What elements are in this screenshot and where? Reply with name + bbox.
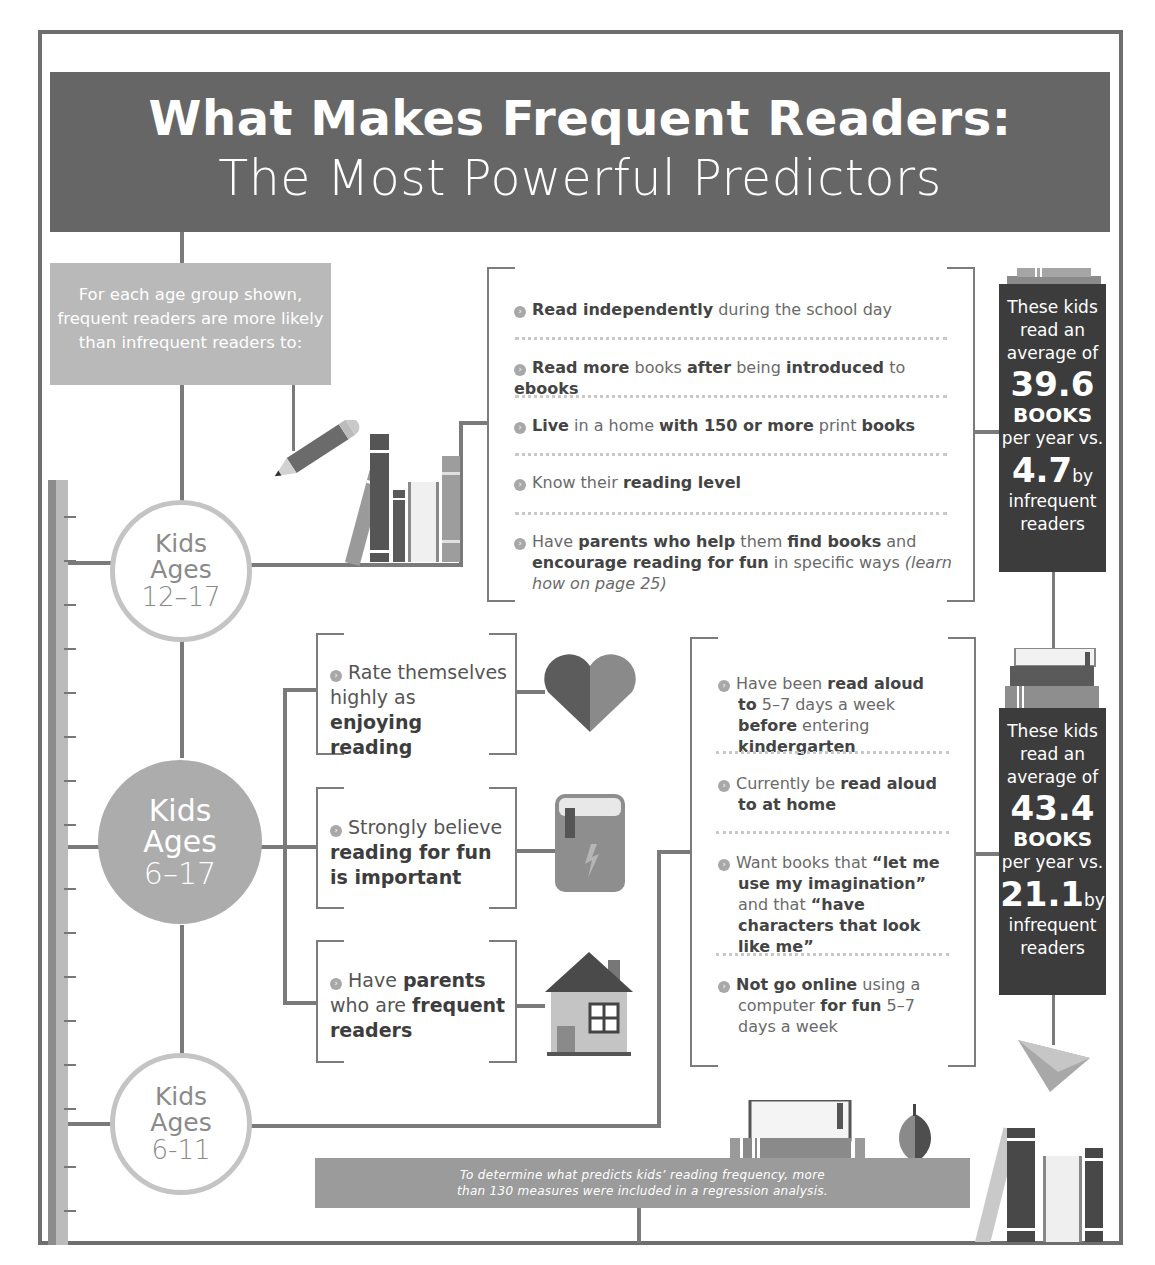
ruler-tick: [64, 932, 76, 934]
ruler-tick: [64, 648, 76, 650]
predictor-text: Read independently during the school day: [532, 300, 892, 319]
circle-label: Ages: [150, 1110, 211, 1136]
predictor-item: ›Live in a home with 150 or more print b…: [514, 415, 954, 436]
predictor-item: ›Currently be read aloud to at home: [718, 773, 943, 815]
ruler-tick: [64, 692, 76, 694]
chevron-right-icon: ›: [514, 479, 526, 491]
predictor-text: Have parents who help them find books an…: [532, 532, 952, 593]
ruler-tick: [64, 824, 76, 826]
ruler-tick: [64, 1064, 76, 1066]
circle-label: Kids: [155, 531, 207, 557]
connector-line: [180, 925, 184, 1053]
predictor-item: ›Have parents who are frequent readers: [330, 968, 510, 1043]
connector-line: [283, 1001, 318, 1005]
ruler-tick: [64, 888, 76, 890]
connector-line: [248, 1124, 660, 1128]
bracket-left: [690, 637, 718, 1067]
connector-line: [657, 850, 661, 1128]
book-icon: [555, 794, 627, 894]
ruler-tick: [64, 1210, 76, 1212]
book-stack-icon: [1007, 268, 1101, 284]
dotted-divider: [515, 453, 947, 456]
chevron-right-icon: ›: [718, 859, 730, 871]
connector-line: [180, 640, 184, 758]
connector-line: [180, 385, 184, 503]
predictor-item: ›Have been read aloud to 5–7 days a week…: [718, 673, 943, 757]
chevron-right-icon: ›: [514, 364, 526, 376]
predictor-item: ›Read independently during the school da…: [514, 299, 954, 320]
predictor-text: Not go online using a computer for fun 5…: [736, 975, 920, 1036]
stat-text: read an: [999, 743, 1106, 766]
chevron-right-icon: ›: [514, 306, 526, 318]
connector-line: [515, 849, 555, 853]
predictor-text: Strongly believe reading for fun is impo…: [330, 816, 502, 888]
predictor-text: Know their reading level: [532, 473, 741, 492]
stat-text: per year vs.: [999, 851, 1106, 874]
predictor-item: ›Have parents who help them find books a…: [514, 531, 954, 594]
stat-text: average of: [999, 342, 1106, 365]
connector-line: [657, 850, 690, 854]
ruler-tick: [64, 976, 76, 978]
dotted-divider: [515, 337, 947, 340]
connector-line: [1052, 572, 1055, 652]
chevron-right-icon: ›: [514, 538, 526, 550]
circle-label: Ages: [143, 826, 217, 858]
chevron-right-icon: ›: [330, 978, 342, 990]
ruler-tick: [64, 736, 76, 738]
connector-line: [68, 845, 100, 849]
chevron-right-icon: ›: [718, 780, 730, 792]
connector-line: [637, 1208, 641, 1243]
circle-range: 12–17: [141, 584, 220, 611]
chevron-right-icon: ›: [330, 670, 342, 682]
connector-line: [515, 1004, 545, 1008]
circle-label: Kids: [149, 795, 212, 827]
stat-box-12-17: These kids read an average of 39.6 BOOKS…: [999, 284, 1106, 572]
connector-line: [974, 852, 1002, 856]
chevron-right-icon: ›: [718, 981, 730, 993]
stat-text: readers: [999, 513, 1106, 536]
circle-label: Kids: [155, 1084, 207, 1110]
frequent-books-value: 43.4: [999, 789, 1106, 827]
heart-icon: [540, 652, 640, 734]
stat-box-6-11: These kids read an average of 43.4 BOOKS…: [999, 708, 1106, 995]
footer-note: To determine what predicts kids’ reading…: [315, 1158, 970, 1208]
ruler-tick: [64, 1108, 76, 1110]
connector-line: [68, 1122, 113, 1126]
connector-line: [283, 688, 318, 692]
stat-text: These kids: [999, 720, 1106, 743]
predictor-item: ›Strongly believe reading for fun is imp…: [330, 815, 510, 890]
ruler-decoration: [48, 480, 68, 1245]
ruler-tick: [64, 560, 76, 562]
infrequent-books-value: 4.7: [1012, 450, 1072, 490]
frequent-books-value: 39.6: [999, 365, 1106, 403]
predictor-text: Have parents who are frequent readers: [330, 969, 505, 1041]
dotted-divider: [716, 751, 949, 754]
title: What Makes Frequent Readers:: [50, 90, 1110, 146]
predictor-text: Currently be read aloud to at home: [736, 774, 937, 814]
connector-line: [283, 845, 318, 849]
predictor-text: Have been read aloud to 5–7 days a week …: [736, 674, 924, 756]
infrequent-books-value: 21.1: [1000, 874, 1084, 914]
connector-line: [974, 430, 1002, 434]
ruler-tick: [64, 780, 76, 782]
circle-range: 6-11: [151, 1137, 210, 1164]
stat-text: infrequent: [999, 490, 1106, 513]
predictor-item: ›Know their reading level: [514, 472, 954, 493]
ruler-tick: [64, 1020, 76, 1022]
circle-range: 6–17: [144, 858, 216, 890]
stat-text: These kids: [999, 296, 1106, 319]
stat-text: by: [1084, 890, 1105, 910]
stat-text: infrequent: [999, 914, 1106, 937]
stat-text: read an: [999, 319, 1106, 342]
chevron-right-icon: ›: [514, 422, 526, 434]
bracket-left: [487, 267, 515, 602]
circle-label: Ages: [150, 557, 211, 583]
age-circle-6-17: Kids Ages 6–17: [98, 760, 262, 924]
connector-line: [1052, 995, 1055, 1045]
predictor-item: ›Rate themselves highly as enjoying read…: [330, 660, 510, 760]
predictor-text: Live in a home with 150 or more print bo…: [532, 416, 915, 435]
dotted-divider: [716, 953, 949, 956]
subtitle: The Most Powerful Predictors: [50, 150, 1110, 207]
predictor-text: Want books that “let me use my imaginati…: [736, 853, 940, 956]
predictor-item: ›Not go online using a computer for fun …: [718, 974, 943, 1037]
